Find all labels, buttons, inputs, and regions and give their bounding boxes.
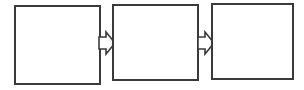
flow-node-3[interactable]: [212, 4, 293, 79]
flow-node-2[interactable]: [113, 5, 198, 80]
flow-node-1[interactable]: [15, 6, 100, 84]
node-rectangle[interactable]: [212, 4, 293, 79]
node-rectangle[interactable]: [15, 6, 100, 84]
diagram-canvas: [0, 0, 304, 90]
node-rectangle[interactable]: [113, 5, 198, 80]
flowchart-diagram: [0, 0, 304, 90]
